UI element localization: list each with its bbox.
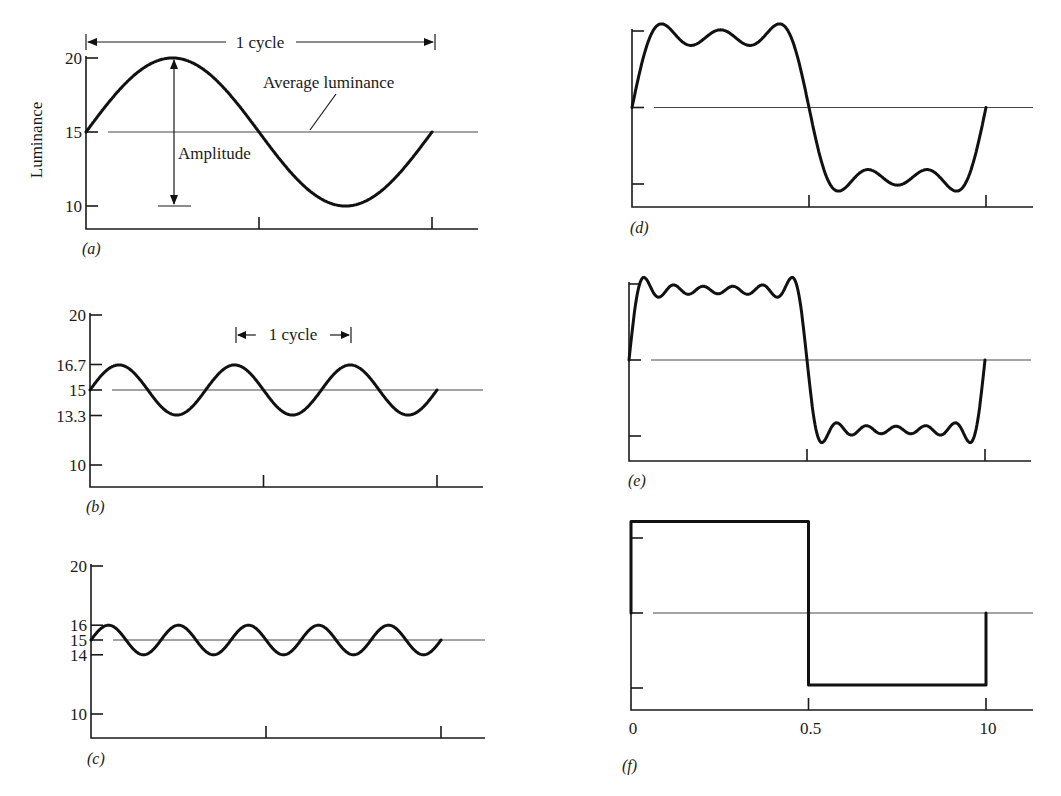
- average-luminance-label: Average luminance: [263, 73, 394, 92]
- axes: [629, 282, 1031, 461]
- panel-label: (d): [630, 219, 649, 237]
- panel-label: (f): [622, 757, 637, 775]
- panel-a: Luminance (a) 1 cycle Average luminance …: [27, 33, 478, 258]
- amplitude-label: Amplitude: [178, 144, 251, 163]
- y-axis-label: Luminance: [27, 102, 46, 178]
- y-tick-label: 10: [70, 705, 87, 724]
- panel-label: (c): [87, 750, 105, 768]
- panel-e: (e): [628, 277, 1031, 490]
- y-tick-label: 10: [65, 197, 82, 216]
- x-tick-label: 0: [629, 719, 638, 738]
- x-tick-label: 0.5: [800, 719, 821, 738]
- arrowhead-left-icon: [237, 331, 246, 339]
- arrowhead-up-icon: [170, 59, 178, 69]
- arrowhead-right-icon: [341, 331, 350, 339]
- panel-c: (c) 2016151410: [70, 557, 485, 768]
- y-tick-label: 20: [69, 306, 86, 325]
- panel-label: (e): [628, 472, 646, 490]
- cycle-label: 1 cycle: [236, 33, 285, 52]
- cycle-label: 1 cycle: [269, 325, 318, 344]
- y-tick-label: 15: [69, 381, 86, 400]
- y-tick-label: 15: [65, 123, 82, 142]
- panel-label: (b): [86, 498, 105, 516]
- figure: Luminance (a) 1 cycle Average luminance …: [0, 0, 1061, 796]
- y-tick-label: 20: [65, 49, 82, 68]
- y-tick-label: 20: [70, 557, 87, 576]
- panel-b: (b) 1 cycle 2016.71513.310: [56, 306, 483, 516]
- y-tick-label: 10: [69, 456, 86, 475]
- panel-f: (f) 00.510: [622, 522, 1033, 776]
- axes: [632, 29, 1033, 207]
- average-luminance-leader: [310, 94, 336, 130]
- arrowhead-down-icon: [170, 195, 178, 205]
- panel-label: (a): [82, 240, 101, 258]
- waveform: [631, 522, 986, 686]
- y-tick-label: 16.7: [56, 356, 86, 375]
- arrowhead-left-icon: [87, 38, 97, 46]
- y-tick-label: 14: [70, 646, 88, 665]
- x-tick-label: 10: [980, 719, 997, 738]
- arrowhead-right-icon: [424, 38, 434, 46]
- panel-d: (d): [630, 24, 1033, 237]
- y-tick-label: 13.3: [56, 407, 86, 426]
